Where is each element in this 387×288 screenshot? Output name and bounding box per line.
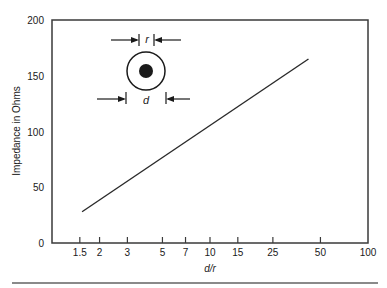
impedance-chart: 050100150200 1.5235710152550100 d/r Impe… [0,0,387,288]
y-tick-label: 0 [38,238,44,249]
x-tick-label: 100 [360,247,377,258]
x-axis-title: d/r [204,263,216,274]
x-tick-label: 50 [315,247,327,258]
y-tick-label: 150 [27,71,44,82]
data-series [82,59,308,212]
x-tick-label: 15 [232,247,244,258]
y-axis: 050100150200 [27,15,44,249]
x-axis: 1.5235710152550100 [73,237,377,258]
arrow-right-icon [131,37,139,43]
series-line [82,59,308,212]
r-label: r [145,33,150,45]
bottom-separator [12,282,378,284]
coax-inner-conductor-icon [139,64,153,78]
x-tick-label: 7 [183,247,189,258]
plot-frame [52,20,368,243]
y-tick-label: 50 [33,182,45,193]
x-tick-label: 1.5 [73,247,87,258]
x-tick-label: 25 [267,247,279,258]
y-tick-label: 200 [27,15,44,26]
arrow-left-icon [154,37,162,43]
y-tick-label: 100 [27,127,44,138]
x-tick-label: 2 [97,247,103,258]
x-tick-label: 10 [204,247,216,258]
coax-diagram: r d [97,33,190,106]
arrow-right-icon [118,96,126,102]
x-tick-label: 5 [160,247,166,258]
x-tick-label: 3 [125,247,131,258]
d-label: d [143,94,150,106]
arrow-left-icon [166,96,174,102]
y-axis-title: Impedance in Ohms [11,86,22,176]
